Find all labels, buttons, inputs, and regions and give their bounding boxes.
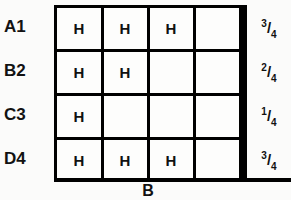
grid-row-divider-2 bbox=[57, 93, 239, 96]
cell-b2-c2: H bbox=[103, 65, 147, 80]
cell-b2-c1: H bbox=[57, 65, 101, 80]
cell-a1-c2: H bbox=[103, 21, 147, 36]
grid-figure: A1 B2 C3 D4 H H H H H H H H H 3/4 bbox=[0, 0, 291, 200]
grid-row-divider-1 bbox=[57, 49, 239, 52]
score-b2-denominator: 4 bbox=[271, 73, 277, 84]
score-b2: 2/4 bbox=[247, 63, 291, 84]
cell-a1-c1: H bbox=[57, 21, 101, 36]
grid-table: H H H H H H H H H bbox=[54, 5, 242, 181]
score-d4-denominator: 4 bbox=[271, 161, 277, 172]
row-label-a1: A1 bbox=[4, 18, 52, 35]
bottom-axis-label: B bbox=[54, 183, 242, 199]
row-label-c3: C3 bbox=[4, 106, 52, 123]
cell-d4-c3: H bbox=[149, 153, 193, 168]
cell-d4-c1: H bbox=[57, 153, 101, 168]
score-a1-denominator: 4 bbox=[271, 29, 277, 40]
row-label-d4: D4 bbox=[4, 150, 52, 167]
score-a1: 3/4 bbox=[247, 19, 291, 40]
cell-d4-c2: H bbox=[103, 153, 147, 168]
score-c3-denominator: 4 bbox=[271, 117, 277, 128]
bottom-axis-rule bbox=[54, 178, 291, 182]
grid-row-divider-3 bbox=[57, 137, 239, 140]
cell-c3-c1: H bbox=[57, 109, 101, 124]
cell-a1-c3: H bbox=[149, 21, 193, 36]
score-d4: 3/4 bbox=[247, 151, 291, 172]
score-c3: 1/4 bbox=[247, 107, 291, 128]
score-column: 3/4 2/4 1/4 3/4 bbox=[247, 5, 291, 181]
row-label-b2: B2 bbox=[4, 62, 52, 79]
